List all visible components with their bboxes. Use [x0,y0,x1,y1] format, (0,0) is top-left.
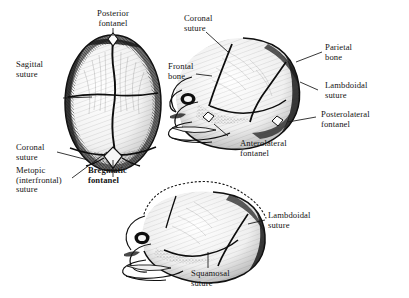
anatomy-figure: Posterior fontanel Sagittal suture Coron… [0,0,409,298]
label-parietal-bone: Parietal bone [325,43,373,62]
label-line: suture [191,279,251,289]
label-posterolateral-fontanel: Posterolateral fontanel [321,110,397,129]
label-bregmatic-fontanel: Bregmatic fontanel [88,166,150,185]
label-squamosal-suture: Squamosal suture [191,269,251,288]
label-line: fontanel [88,176,150,186]
label-line: suture [325,91,389,101]
label-line: fontanel [321,120,397,130]
label-line: suture [16,153,68,163]
label-line: suture [268,221,330,231]
label-coronal-suture-lateral: Coronal suture [184,14,234,33]
label-coronal-suture-superior: Coronal suture [16,143,68,162]
label-line: suture [184,24,234,34]
label-frontal-bone: Frontal bone [168,62,212,81]
label-line: suture [16,185,82,195]
superior-view-skull [62,30,161,171]
label-posterior-fontanel: Posterior fontanel [79,9,147,28]
label-line: fontanel [79,19,147,29]
label-lambdoidal-suture-lower: Lambdoidal suture [268,211,330,230]
label-line: suture [16,70,68,80]
label-line: bone [168,72,212,82]
label-sagittal-suture: Sagittal suture [16,60,68,79]
label-line: fontanel [240,149,314,159]
label-line: bone [325,53,373,63]
lateral-view-skull-upper [168,38,301,149]
label-anterolateral-fontanel: Anterolateral fontanel [240,139,314,158]
label-metopic-suture: Metopic (interfrontal) suture [16,166,82,195]
label-lambdoidal-suture-upper: Lambdoidal suture [325,81,389,100]
